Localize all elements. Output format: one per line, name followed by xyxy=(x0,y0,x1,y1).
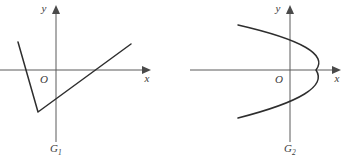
curve-g2 xyxy=(238,25,319,118)
y-axis-label-g1: y xyxy=(41,2,47,14)
caption-g1-subscript: 1 xyxy=(58,148,62,157)
origin-label-g1: O xyxy=(40,73,48,85)
graph-svg-g1: y x O G1 xyxy=(0,0,180,159)
x-axis-label-g2: x xyxy=(334,72,340,84)
curve-g1 xyxy=(18,42,131,112)
figure-root: y x O G1 y x O G2 xyxy=(0,0,360,159)
y-axis-arrow-g1 xyxy=(52,5,60,14)
y-axis-arrow-g2 xyxy=(286,5,294,14)
graph-svg-g2: y x O G2 xyxy=(180,0,360,159)
caption-g2-subscript: 2 xyxy=(292,148,296,157)
graph-panel-g1: y x O G1 xyxy=(0,0,180,159)
graph-panel-g2: y x O G2 xyxy=(180,0,360,159)
caption-g2: G2 xyxy=(284,142,296,157)
x-axis-label-g1: x xyxy=(144,72,150,84)
caption-g1-base: G xyxy=(50,142,58,154)
origin-label-g2: O xyxy=(275,73,283,85)
y-axis-label-g2: y xyxy=(275,2,281,14)
caption-g1: G1 xyxy=(50,142,62,157)
caption-g2-base: G xyxy=(284,142,292,154)
